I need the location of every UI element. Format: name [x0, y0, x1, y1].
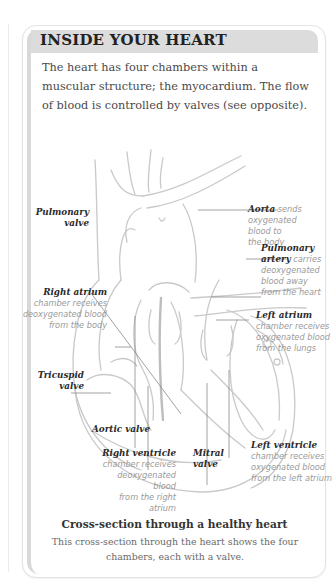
- label-right-atrium: Right atrium chamber receives deoxygenat…: [6, 287, 107, 331]
- label-aorta: Aorta sends oxygenated blood to the body: [248, 204, 328, 248]
- figure-caption-text: This cross-section through the heart sho…: [50, 534, 300, 564]
- label-pulmonary-valve: Pulmonary valve: [20, 207, 89, 229]
- label-mitral-valve: Mitral valve: [193, 448, 233, 470]
- label-aortic-valve: Aortic valve: [90, 424, 150, 435]
- label-pulmonary-artery: Pulmonary artery carries deoxygenated bl…: [261, 243, 333, 298]
- label-left-atrium: Left atrium chamber receives oxygenated …: [256, 310, 334, 354]
- box-title: INSIDE YOUR HEART: [40, 31, 227, 49]
- intro-paragraph: The heart has four chambers within a mus…: [42, 58, 312, 115]
- figure-caption-title: Cross-section through a healthy heart: [31, 518, 318, 530]
- label-right-ventricle: Right ventricle chamber receives deoxyge…: [92, 448, 176, 514]
- label-tricuspid-valve: Tricuspid valve: [20, 370, 84, 392]
- label-left-ventricle: Left ventricle chamber receives oxygenat…: [251, 440, 333, 484]
